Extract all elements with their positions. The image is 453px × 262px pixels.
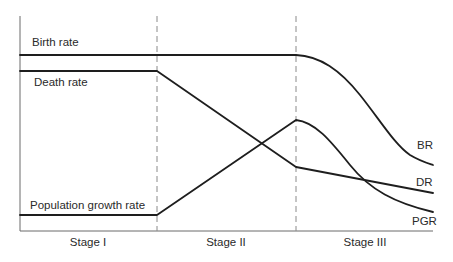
death-rate-label: Death rate	[34, 76, 88, 88]
stage-1-label: Stage I	[70, 236, 106, 248]
stage-2-label: Stage II	[206, 236, 246, 248]
dr-short-label: DR	[416, 176, 433, 188]
pgr-label: Population growth rate	[30, 199, 145, 211]
death-rate-line	[20, 71, 433, 193]
demographic-transition-diagram: Birth rate Death rate Population growth …	[0, 0, 453, 262]
br-short-label: BR	[417, 139, 433, 151]
birth-rate-label: Birth rate	[32, 36, 79, 48]
pgr-short-label: PGR	[412, 215, 437, 227]
stage-3-label: Stage III	[344, 236, 387, 248]
